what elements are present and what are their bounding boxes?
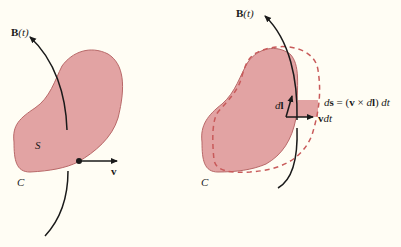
vdt-label: vdt [318, 112, 332, 124]
diagram-canvas [0, 0, 401, 247]
velocity-label: v [111, 165, 117, 177]
curve-label-left: C [17, 176, 24, 188]
field-label-right: B(t) [236, 7, 254, 19]
field-line-lower [45, 171, 68, 236]
field-label-left: B(t) [11, 26, 29, 38]
line-element-label: dl [275, 99, 284, 111]
curve-label-right: C [201, 176, 208, 188]
surface-s [14, 50, 123, 172]
area-element-equation: ds = (v × dl) dt [324, 96, 390, 108]
surface-label: S [35, 139, 41, 151]
